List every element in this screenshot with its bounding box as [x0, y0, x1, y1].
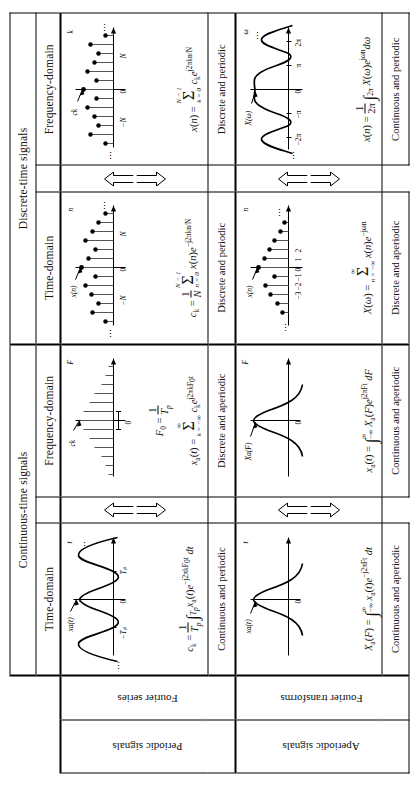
row-fourier-series-character: Continuous and periodic Discrete and ape… [207, 13, 235, 773]
arrows-dt-periodic [60, 165, 207, 191]
arrows-ct-periodic [60, 496, 207, 522]
formula-ct-periodic-time: ck = 1Tp ∫Tpxa(t)e−j2πkF0t dt [176, 523, 202, 674]
row-fourier-transforms: Aperiodic signals Fourier transforms 0 [235, 13, 382, 773]
double-arrow-down-ct-p [136, 502, 166, 517]
axis-label-omega-dt-a: ω [240, 28, 249, 33]
signal-label-ct-periodic-time: xa(t) [65, 616, 74, 632]
header-row-groups: Continuous-time signals Discrete-time si… [10, 13, 36, 773]
plot-ct-periodic-time: −Tₚ 0 Tₚ t ⋯ ⋯ xa(t) [61, 523, 135, 674]
ellipsis-right-dt-a: ⋯ [274, 206, 284, 216]
corner-blank-1 [10, 720, 36, 773]
ellipsis-right-dt-p-time: ⋯ [99, 199, 109, 209]
cell-dt-periodic-time: −N 0 N n ⋯ ⋯ x(n) ck = 1N [60, 191, 207, 343]
tick-2pi-dt-a: 2π [293, 38, 302, 46]
rowgroup-periodic-signals: Periodic signals [60, 720, 234, 773]
formula-dt-periodic-time: ck = 1N N − 1Σn = 0 x(n)e−j2πkn/N [174, 192, 202, 343]
tick-N-dt-p-time: N [118, 230, 127, 237]
double-arrow-up-dt-p [103, 171, 133, 186]
character-ct-periodic-freq: Discrete and aperiodic [207, 344, 235, 496]
plot-dt-aperiodic-freq: −2π −π 0 π 2π ω ⋯ ⋯ X(ω) [236, 13, 310, 164]
ellipsis-left-dt-p-freq: ⋯ [105, 149, 115, 159]
plot-svg-dt-aperiodic-freq: −2π −π 0 π 2π ω ⋯ ⋯ X(ω) [236, 19, 310, 159]
figure-frame: Continuous-time signals Discrete-time si… [0, 0, 418, 785]
tick-N-dt-p-freq: N [118, 52, 127, 59]
tick-neg-Tp: −Tₚ [118, 625, 127, 638]
rowgroup-fourier-transforms-label: Fourier transforms [280, 692, 362, 704]
signal-label-dt-periodic-time: x(n) [68, 285, 77, 299]
tick-zero-ct-p-freq: 0 [123, 420, 132, 424]
character-dt-periodic-time: Discrete and periodic [207, 191, 235, 343]
rowgroup-fourier-series: Fourier series [60, 675, 234, 720]
cell-dt-periodic-freq: −N 0 N k ⋯ ⋯ ck x(n) = N − [60, 13, 207, 165]
tick-zero-ct-p-time: 0 [118, 599, 127, 603]
corner-blank-3 [35, 720, 60, 773]
signal-label-dt-aperiodic-time: x(n) [244, 285, 253, 299]
tick-neg-N-dt-p-time: −N [118, 294, 127, 305]
spacer-char-ct-a [381, 496, 408, 522]
plot-dt-periodic-freq: −N 0 N k ⋯ ⋯ ck [61, 13, 135, 164]
plot-svg-ct-periodic-time: −Tₚ 0 Tₚ t ⋯ ⋯ xa(t) [61, 529, 135, 669]
tick-p2-dt-a: 2 [293, 248, 302, 252]
row-fourier-transforms-character: Continuous and aperiodic Continuous and … [381, 13, 408, 773]
colgroup-continuous-time: Continuous-time signals [10, 344, 36, 675]
arrows-ct-aperiodic [235, 496, 382, 522]
tick-neg-N-dt-p-freq: −N [118, 116, 127, 127]
character-ct-aperiodic-freq: Continuous and aperiodic [381, 344, 408, 496]
tick-m1-dt-a: −1 [293, 273, 302, 281]
fourier-summary-table: Continuous-time signals Discrete-time si… [9, 12, 409, 773]
axis-label-F-ct-a: F [240, 359, 249, 365]
col-ct-time-domain: Time-domain [35, 523, 60, 675]
formula-ct-aperiodic-time: Xa(F) = ∫∞−∞ xa(t)e−j2πFt dt [360, 523, 376, 674]
tick-p1-dt-a: 1 [293, 257, 302, 261]
ellipsis-left-dt-a-freq: ⋯ [288, 149, 298, 159]
tick-zero-ct-a-time: 0 [293, 599, 302, 603]
corner-blank-4 [35, 675, 60, 720]
plot-ct-aperiodic-freq: 0 F Xa(F) [236, 345, 310, 496]
plot-svg-ct-periodic-freq: 0 F ck [61, 350, 135, 490]
rowgroup-aperiodic-label: Aperiodic signals [282, 740, 359, 752]
axis-label-F-ct-p: F [65, 359, 74, 365]
arrows-dt-aperiodic [235, 165, 382, 191]
signal-label-ct-aperiodic-time: xa(t) [243, 618, 252, 634]
double-arrow-up-ct-p [103, 502, 133, 517]
row-fourier-series: Periodic signals Fourier series [60, 13, 207, 773]
plot-ct-periodic-freq: 0 F ck [61, 345, 135, 496]
formula-dt-periodic-freq: x(n) = N − 1Σk = 0 ckej2πkn/N [175, 13, 202, 164]
rowgroup-fourier-transforms: Fourier transforms [235, 675, 409, 720]
plot-svg-ct-aperiodic-freq: 0 F Xa(F) [236, 350, 310, 490]
plot-dt-periodic-time: −N 0 N n ⋯ ⋯ x(n) [61, 192, 135, 343]
plot-svg-dt-periodic-time: −N 0 N n ⋯ ⋯ x(n) [61, 197, 135, 337]
plot-ct-aperiodic-time: 0 t xa(t) [236, 523, 310, 674]
ellipsis-left-dt-p-time: ⋯ [105, 327, 115, 337]
tick-m3-dt-a: −3 [293, 291, 302, 299]
col-ct-frequency-domain: Frequency-domain [35, 344, 60, 496]
axis-label-n-dt-p: n [65, 207, 74, 211]
double-arrow-up-dt-a [277, 171, 307, 186]
spacer-char-ct-p [207, 496, 235, 522]
tick-pi-dt-a: π [293, 63, 302, 67]
plot-svg-ct-aperiodic-time: 0 t xa(t) [236, 529, 310, 669]
signal-label-dt-periodic-freq: ck [69, 107, 78, 114]
colgroup-discrete-time: Discrete-time signals [10, 13, 36, 344]
tick-neg-pi-dt-a: −π [293, 110, 302, 118]
cell-dt-aperiodic-freq: −2π −π 0 π 2π ω ⋯ ⋯ X(ω) [235, 13, 382, 165]
rowgroup-fourier-series-label: Fourier series [117, 692, 177, 704]
axis-label-k-dt-p: k [65, 29, 74, 33]
ellipsis-left-ct-p: ⋯ [113, 659, 123, 669]
cell-dt-aperiodic-time: −3 −2 −1 0 1 2 n ⋯ ⋯ x(n) [235, 191, 382, 343]
cell-ct-periodic-time: −Tₚ 0 Tₚ t ⋯ ⋯ xa(t) ck = 1 [60, 523, 207, 675]
cell-ct-aperiodic-time: 0 t xa(t) Xa(F) = ∫∞−∞ xa(t)e−j2πFt dt [235, 523, 382, 675]
axis-label-t-ct-p: t [64, 540, 73, 543]
formula-ct-periodic-freq: F0 = 1Tp xa(t) = ∞Σk = −∞ ckej2πkF0t [146, 345, 202, 496]
tick-zero-dt-a: 0 [293, 267, 302, 271]
col-dt-time-domain: Time-domain [35, 191, 60, 343]
header-row-domains: Time-domain Frequency-domain Time-domain… [35, 13, 60, 773]
spacer-char-dt-a [381, 165, 408, 191]
tick-m2-dt-a: −2 [293, 282, 302, 290]
double-arrow-down-ct-a [310, 502, 340, 517]
axis-label-t-ct-a: t [240, 540, 249, 543]
spacer-ct [35, 496, 60, 522]
character-dt-periodic-freq: Discrete and periodic [207, 13, 235, 165]
axis-label-n-dt-a: n [240, 207, 249, 211]
formula-dt-aperiodic-freq: x(n) = 12π ∫2π X(ω)ejωndω [353, 13, 376, 164]
